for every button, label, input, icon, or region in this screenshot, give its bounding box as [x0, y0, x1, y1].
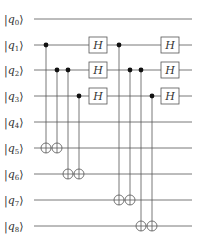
control-dot-icon: [128, 68, 133, 73]
control-dot-icon: [139, 68, 144, 73]
control-dot-icon: [150, 94, 155, 99]
hadamard-label: H: [92, 39, 103, 52]
circuit-canvas: |q0⟩|q1⟩|q2⟩|q3⟩|q4⟩|q5⟩|q6⟩|q7⟩|q8⟩HHHH…: [0, 0, 200, 242]
control-dot-icon: [117, 43, 122, 48]
quantum-circuit-diagram: |q0⟩|q1⟩|q2⟩|q3⟩|q4⟩|q5⟩|q6⟩|q7⟩|q8⟩HHHH…: [0, 0, 200, 242]
qubit-label: |q2⟩: [4, 64, 24, 78]
qubit-label: |q5⟩: [4, 142, 24, 156]
qubit-label: |q7⟩: [4, 194, 24, 208]
control-dot-icon: [44, 43, 49, 48]
qubit-label: |q0⟩: [4, 13, 24, 27]
control-dot-icon: [55, 68, 60, 73]
hadamard-label: H: [92, 64, 103, 77]
hadamard-label: H: [164, 90, 175, 103]
qubit-label: |q6⟩: [4, 168, 24, 182]
hadamard-label: H: [164, 64, 175, 77]
hadamard-label: H: [164, 39, 175, 52]
qubit-label: |q4⟩: [4, 116, 24, 130]
qubit-label: |q3⟩: [4, 90, 24, 104]
qubit-label: |q8⟩: [4, 220, 24, 234]
hadamard-label: H: [92, 90, 103, 103]
control-dot-icon: [77, 94, 82, 99]
control-dot-icon: [66, 68, 71, 73]
qubit-label: |q1⟩: [4, 39, 24, 53]
